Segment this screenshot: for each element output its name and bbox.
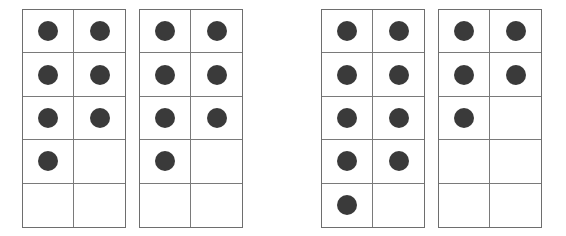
counter-dot — [155, 108, 175, 128]
frame-cell — [439, 184, 490, 227]
counter-dot — [90, 21, 110, 41]
counter-dot — [506, 65, 526, 85]
frame-cell — [490, 140, 541, 183]
counter-dot — [389, 65, 409, 85]
counter-dot — [454, 65, 474, 85]
frame-cell — [191, 184, 242, 227]
frame-cell — [23, 10, 74, 53]
counter-dot — [38, 65, 58, 85]
frame-cell — [23, 140, 74, 183]
ten-frame — [321, 9, 425, 228]
ten-frame — [139, 9, 243, 228]
frame-cell — [74, 53, 125, 96]
frame-cell — [322, 184, 373, 227]
counter-dot — [38, 21, 58, 41]
frame-cell — [140, 10, 191, 53]
counter-dot — [389, 151, 409, 171]
frame-cell — [490, 10, 541, 53]
frame-cell — [191, 10, 242, 53]
frame-cell — [23, 97, 74, 140]
counter-dot — [155, 21, 175, 41]
counter-dot — [155, 65, 175, 85]
counter-dot — [337, 151, 357, 171]
counter-dot — [207, 21, 227, 41]
counter-dot — [90, 65, 110, 85]
counter-dot — [90, 108, 110, 128]
counter-dot — [207, 108, 227, 128]
counter-dot — [389, 108, 409, 128]
counter-dot — [506, 21, 526, 41]
frame-cell — [439, 10, 490, 53]
frame-cell — [322, 53, 373, 96]
counter-dot — [337, 21, 357, 41]
frame-cell — [140, 53, 191, 96]
ten-frame — [438, 9, 542, 228]
frame-cell — [322, 10, 373, 53]
frame-cell — [373, 10, 424, 53]
counter-dot — [337, 195, 357, 215]
counter-dot — [207, 65, 227, 85]
frame-cell — [373, 53, 424, 96]
counter-dot — [38, 108, 58, 128]
frame-cell — [439, 140, 490, 183]
counter-dot — [155, 151, 175, 171]
frame-cell — [373, 184, 424, 227]
counter-dot — [337, 108, 357, 128]
frame-cell — [322, 140, 373, 183]
frame-cell — [191, 97, 242, 140]
counter-dot — [38, 151, 58, 171]
frame-cell — [373, 140, 424, 183]
frame-cell — [490, 53, 541, 96]
frame-cell — [490, 184, 541, 227]
frame-cell — [140, 140, 191, 183]
frame-cell — [439, 97, 490, 140]
frame-cell — [74, 97, 125, 140]
ten-frame — [22, 9, 126, 228]
frame-cell — [23, 53, 74, 96]
frame-cell — [322, 97, 373, 140]
frame-cell — [140, 97, 191, 140]
frame-cell — [191, 53, 242, 96]
counter-dot — [454, 108, 474, 128]
frame-cell — [23, 184, 74, 227]
frame-cell — [74, 184, 125, 227]
counter-dot — [337, 65, 357, 85]
frame-cell — [191, 140, 242, 183]
frame-cell — [74, 10, 125, 53]
counter-dot — [454, 21, 474, 41]
frame-cell — [140, 184, 191, 227]
frame-cell — [74, 140, 125, 183]
frame-cell — [490, 97, 541, 140]
counter-dot — [389, 21, 409, 41]
frame-cell — [373, 97, 424, 140]
frame-cell — [439, 53, 490, 96]
